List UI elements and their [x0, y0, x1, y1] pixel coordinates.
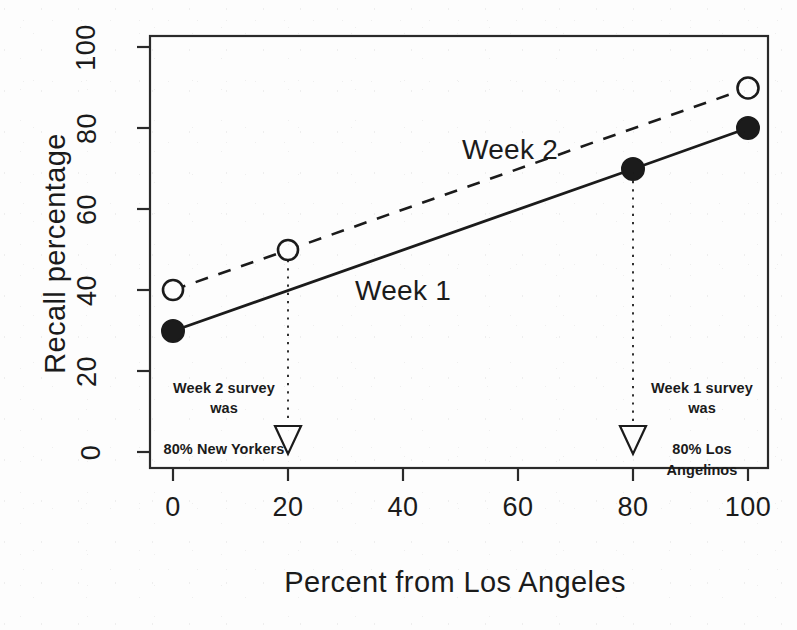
y-tick-label-40: 40	[72, 275, 103, 306]
annotation-week-1-survey: Week 1 survey was 80% Los Angelinos	[638, 357, 766, 501]
annotation-week-2-line-1: Week 2 survey was	[160, 378, 288, 419]
y-tick-label-80: 80	[72, 113, 103, 144]
y-tick-label-20: 20	[72, 356, 103, 387]
chart-figure: 0 20 40 60 80 100 0 20 40 60 80 100 Reca…	[0, 0, 797, 630]
y-tick-label-60: 60	[72, 194, 103, 225]
plot-canvas	[0, 0, 797, 630]
y-axis-title: Recall percentage	[39, 104, 72, 404]
annotation-week-2-survey: Week 2 survey was 80% New Yorkers	[160, 357, 288, 480]
annotation-week-2-line-2: 80% New Yorkers	[160, 439, 288, 460]
x-axis-title: Percent from Los Angeles	[284, 566, 626, 599]
data-point-week1-80	[622, 158, 644, 180]
y-tick-label-100: 100	[71, 24, 102, 71]
data-point-week1-100	[737, 117, 759, 139]
data-point-week2-100	[738, 78, 759, 99]
x-tick-label-40: 40	[387, 492, 418, 523]
x-tick-label-60: 60	[502, 492, 533, 523]
series-line-week-2	[173, 88, 748, 290]
data-point-week2-0	[163, 280, 183, 300]
series-line-week-1	[173, 128, 748, 331]
y-axis-ticks	[137, 47, 150, 452]
annotation-week-1-line-2: 80% Los Angelinos	[638, 439, 766, 480]
series-label-week-2: Week 2	[462, 134, 558, 166]
data-point-week1-0	[162, 320, 184, 342]
x-tick-label-20: 20	[272, 492, 303, 523]
data-point-week2-20	[278, 240, 298, 260]
x-tick-label-0: 0	[165, 492, 181, 523]
series-label-week-1: Week 1	[355, 275, 451, 307]
y-tick-label-0: 0	[76, 445, 107, 461]
series-markers-week-2	[163, 78, 759, 301]
annotation-week-1-line-1: Week 1 survey was	[638, 378, 766, 419]
